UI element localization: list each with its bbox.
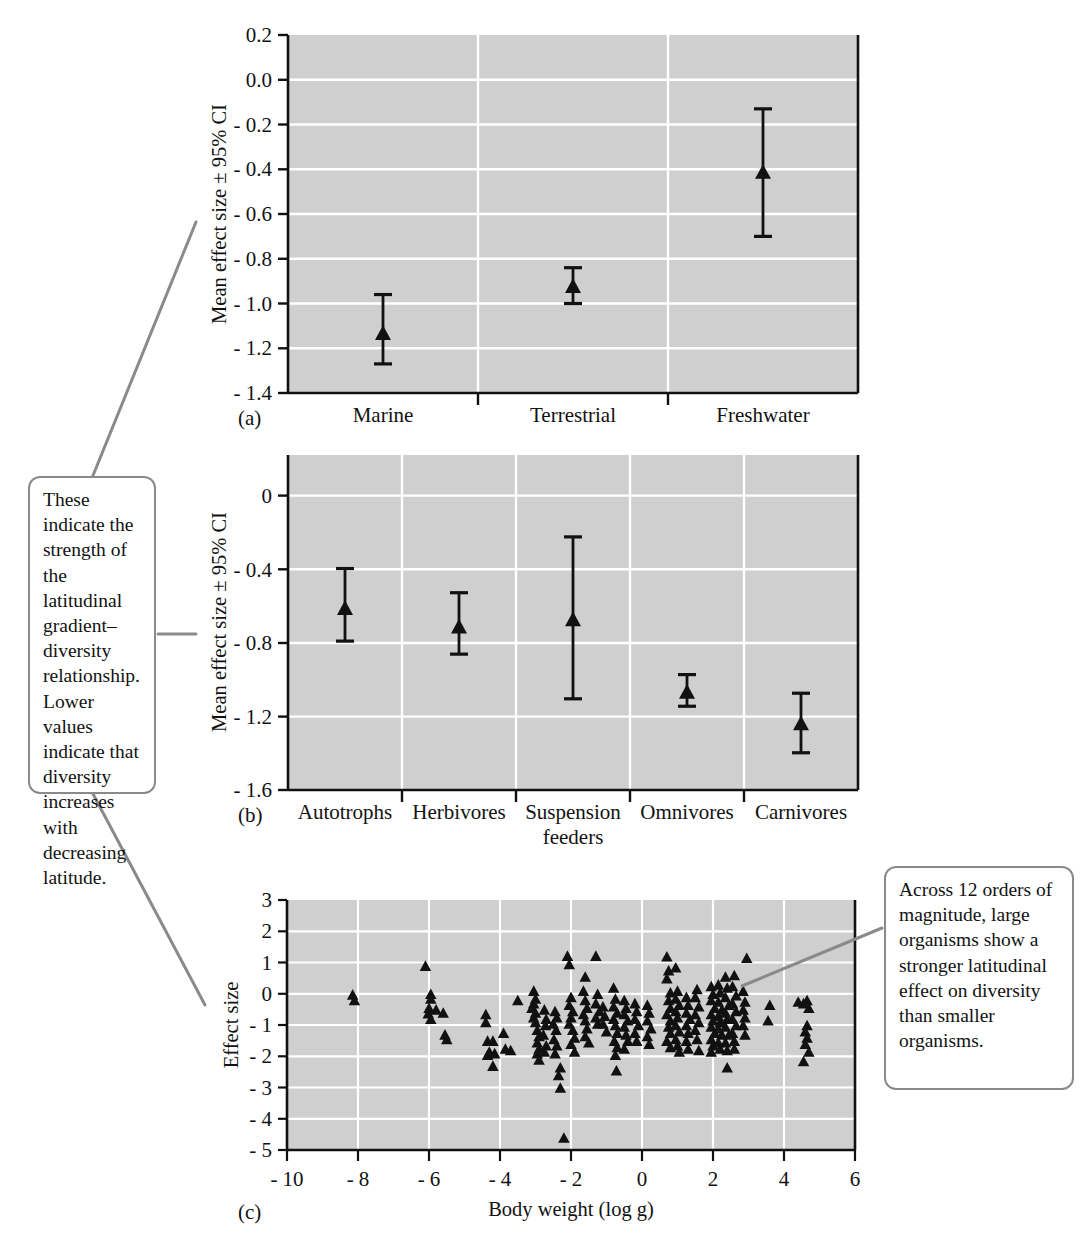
panel-b-category-omnivores: Omnivores	[640, 800, 733, 824]
leader-line-to-panel-a	[92, 222, 196, 478]
panel-b-ytick-2: - 0.8	[234, 631, 273, 655]
panel-c: 3 2 1 0 - 1 - 2 - 3 - 4 - 5 - 10 - 8 - 6…	[220, 888, 860, 1224]
panel-b-category-suspension-line2: feeders	[543, 825, 604, 849]
panel-c-letter: (c)	[238, 1200, 261, 1224]
panel-b-ytick-0: 0	[262, 484, 273, 508]
panel-c-xtick-1: - 8	[347, 1167, 370, 1191]
panel-b-ytick-1: - 0.4	[234, 558, 273, 582]
figure-root: 0.2 0.0 - 0.2 - 0.4 - 0.6 - 0.8 - 1.0 - …	[0, 0, 1084, 1260]
panel-c-ytick-1: 2	[262, 919, 273, 943]
panel-b-letter: (b)	[238, 803, 263, 827]
callout-left-text: These indicate the strength of the latit…	[43, 487, 143, 890]
panel-c-ytick-5: - 2	[249, 1044, 272, 1068]
panel-c-ytick-4: - 1	[249, 1013, 272, 1037]
panel-a-ytick-3: - 0.4	[234, 157, 273, 181]
panel-b-category-autotrophs: Autotrophs	[298, 800, 393, 824]
panel-a-ytick-8: - 1.4	[234, 381, 273, 405]
panel-a-ytick-0: 0.2	[246, 23, 272, 47]
panel-c-ytick-8: - 5	[249, 1138, 272, 1162]
panel-c-ytick-6: - 3	[249, 1076, 272, 1100]
panel-a-y-ticks	[278, 35, 288, 393]
panel-c-xtick-5: 0	[637, 1167, 648, 1191]
panel-c-xtick-0: - 10	[270, 1167, 303, 1191]
panel-a-category-marine: Marine	[353, 403, 414, 427]
panel-a: 0.2 0.0 - 0.2 - 0.4 - 0.6 - 0.8 - 1.0 - …	[208, 23, 858, 430]
panel-c-xtick-6: 2	[708, 1167, 719, 1191]
panel-c-xtick-3: - 4	[489, 1167, 512, 1191]
panel-b: 0 - 0.4 - 0.8 - 1.2 - 1.6 Mean effect si…	[208, 455, 858, 849]
panel-c-xlabel: Body weight (log g)	[488, 1198, 654, 1221]
panel-c-xtick-4: - 2	[560, 1167, 583, 1191]
panel-c-ytick-7: - 4	[249, 1107, 272, 1131]
panel-a-ytick-5: - 0.8	[234, 247, 273, 271]
panel-a-category-terrestrial: Terrestrial	[530, 403, 616, 427]
callout-right-text: Across 12 orders of magnitude, large org…	[899, 877, 1061, 1053]
panel-c-ytick-2: 1	[262, 951, 273, 975]
panel-b-ytick-3: - 1.2	[234, 705, 273, 729]
panel-b-category-suspension: Suspension	[525, 800, 621, 824]
panel-b-category-herbivores: Herbivores	[412, 800, 505, 824]
panel-c-ylabel: Effect size	[220, 982, 242, 1069]
callout-left: These indicate the strength of the latit…	[28, 476, 156, 794]
panel-b-y-ticks	[278, 496, 288, 790]
panel-a-ylabel: Mean effect size ± 95% CI	[208, 104, 230, 324]
panel-c-x-ticks	[287, 1150, 855, 1161]
callout-right: Across 12 orders of magnitude, large org…	[884, 866, 1074, 1090]
panel-a-letter: (a)	[238, 406, 261, 430]
panel-c-ytick-0: 3	[262, 888, 273, 912]
panel-a-ytick-6: - 1.0	[234, 292, 273, 316]
panel-c-xtick-7: 4	[779, 1167, 790, 1191]
panel-c-ytick-3: 0	[262, 982, 273, 1006]
panel-a-ytick-1: 0.0	[246, 68, 272, 92]
panel-b-ylabel: Mean effect size ± 95% CI	[208, 512, 230, 732]
panel-c-xtick-2: - 6	[418, 1167, 441, 1191]
panel-b-ytick-4: - 1.6	[234, 778, 273, 802]
panel-a-ytick-7: - 1.2	[234, 336, 273, 360]
panel-a-ytick-2: - 0.2	[234, 113, 273, 137]
panel-c-y-ticks	[278, 900, 287, 1150]
panel-b-category-carnivores: Carnivores	[755, 800, 847, 824]
panel-c-xtick-8: 6	[850, 1167, 861, 1191]
panel-a-ytick-4: - 0.6	[234, 202, 273, 226]
panel-a-category-freshwater: Freshwater	[716, 403, 809, 427]
